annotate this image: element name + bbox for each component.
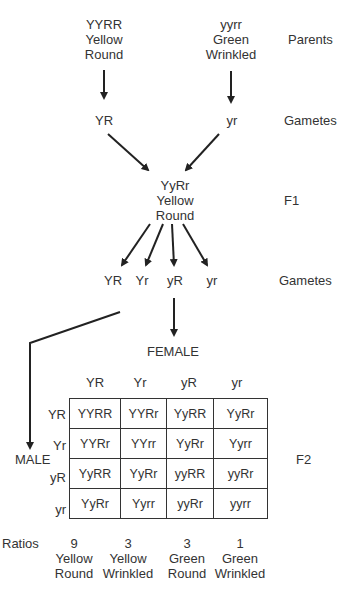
punnett-cell: YyRr (167, 429, 214, 459)
female-label: FEMALE (147, 344, 199, 359)
parent-right: yyrr Green Wrinkled (198, 17, 264, 62)
ratio-color: Green (163, 551, 211, 566)
parent-left-shape: Round (74, 47, 134, 62)
punnett-cell: yyRr (214, 459, 268, 489)
ratios-label: Ratios (2, 536, 39, 551)
punnett-cell: YyRr (70, 489, 121, 519)
parent-right-genotype: yyrr (198, 17, 264, 32)
punnett-cell: YyRR (167, 399, 214, 429)
table-row: YyRR YyRr yyRR yyRr (70, 459, 268, 489)
row-header: yR (38, 470, 66, 485)
table-row: YYRR YYRr YyRR YyRr (70, 399, 268, 429)
f2-label: F2 (296, 452, 311, 467)
ratio-value: 3 (100, 536, 156, 551)
f1-shape: Round (145, 208, 205, 223)
gametes-label-2: Gametes (279, 273, 332, 288)
arrow-gamete-left-to-f1 (108, 134, 148, 170)
punnett-cell: yyRR (167, 459, 214, 489)
punnett-square: YYRR YYRr YyRR YyRr YYRr YYrr YyRr Yyrr … (69, 398, 268, 519)
ratio-shape: Round (163, 566, 211, 581)
arrow-f1-Yr (146, 224, 163, 265)
table-row: YYRr YYrr YyRr Yyrr (70, 429, 268, 459)
f1-gamete: YR (101, 273, 125, 288)
punnett-cell: yyrr (214, 489, 268, 519)
f1-gamete: yr (200, 273, 224, 288)
ratio-item: 1 Green Wrinkled (212, 536, 268, 581)
f1-genotype: YyRr (145, 178, 205, 193)
col-header: yr (217, 375, 257, 390)
ratio-item: 9 Yellow Round (50, 536, 98, 581)
ratio-color: Green (212, 551, 268, 566)
punnett-cell: YyRR (70, 459, 121, 489)
punnett-cell: YYRR (70, 399, 121, 429)
parent-gamete-right: yr (212, 113, 252, 128)
ratio-value: 9 (50, 536, 98, 551)
ratio-shape: Wrinkled (100, 566, 156, 581)
punnett-cell: YyRr (121, 459, 167, 489)
ratio-color: Yellow (50, 551, 98, 566)
punnett-cell: Yyrr (214, 429, 268, 459)
col-header: Yr (120, 375, 160, 390)
col-header: yR (169, 375, 209, 390)
arrow-f1-YR (122, 224, 150, 265)
arrow-gamete-right-to-f1 (186, 134, 219, 170)
row-header: Yr (38, 438, 66, 453)
f1-label: F1 (284, 193, 299, 208)
f1-offspring: YyRr Yellow Round (145, 178, 205, 223)
ratio-shape: Round (50, 566, 98, 581)
ratio-shape: Wrinkled (212, 566, 268, 581)
arrow-f1-yR (172, 224, 174, 265)
parent-gamete-left: YR (84, 113, 124, 128)
ratio-color: Yellow (100, 551, 156, 566)
punnett-cell: YyRr (214, 399, 268, 429)
ratio-item: 3 Green Round (163, 536, 211, 581)
f1-gamete: yR (163, 273, 187, 288)
ratio-item: 3 Yellow Wrinkled (100, 536, 156, 581)
f1-color: Yellow (145, 193, 205, 208)
ratio-value: 1 (212, 536, 268, 551)
parent-left-genotype: YYRR (74, 17, 134, 32)
punnett-cell: Yyrr (121, 489, 167, 519)
parent-right-shape: Wrinkled (198, 47, 264, 62)
punnett-cell: YYRr (121, 399, 167, 429)
row-header: YR (38, 407, 66, 422)
male-label: MALE (15, 452, 50, 467)
parent-right-color: Green (198, 32, 264, 47)
ratio-value: 3 (163, 536, 211, 551)
table-row: YyRr Yyrr yyRr yyrr (70, 489, 268, 519)
gametes-label-1: Gametes (284, 113, 337, 128)
parent-left-color: Yellow (74, 32, 134, 47)
parent-left: YYRR Yellow Round (74, 17, 134, 62)
f1-gamete: Yr (130, 273, 154, 288)
punnett-cell: YYrr (121, 429, 167, 459)
arrow-f1-yr (183, 224, 207, 265)
col-header: YR (75, 375, 115, 390)
punnett-cell: YYRr (70, 429, 121, 459)
punnett-cell: yyRr (167, 489, 214, 519)
parents-label: Parents (288, 32, 333, 47)
row-header: yr (38, 502, 66, 517)
